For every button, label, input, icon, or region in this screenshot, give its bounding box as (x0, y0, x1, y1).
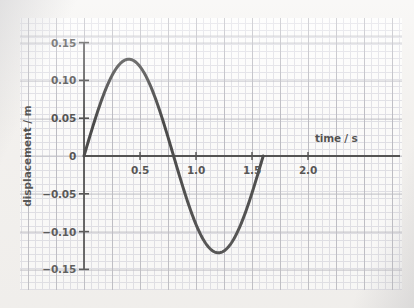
x-tick-label: 0.5 (123, 164, 157, 176)
y-tick-label: 0.15 (36, 37, 76, 49)
x-tick-label: 2.0 (291, 164, 325, 176)
y-tick-label: 0 (36, 150, 76, 162)
y-tick-label: −0.05 (36, 188, 76, 200)
y-tick-label: −0.15 (36, 263, 76, 275)
axis-lines (84, 43, 400, 270)
y-tick-label: 0.05 (36, 112, 76, 124)
y-tick-label: 0.10 (36, 74, 76, 86)
x-axis-title: time / s (315, 132, 357, 144)
y-tick-label: −0.10 (36, 226, 76, 238)
x-tick-label: 1.0 (179, 164, 213, 176)
y-axis-title: displacement / m (21, 96, 33, 216)
graph-paper-figure: displacement / m time / s 0.150.100.050−… (0, 0, 414, 308)
x-tick-label: 1.5 (235, 164, 269, 176)
